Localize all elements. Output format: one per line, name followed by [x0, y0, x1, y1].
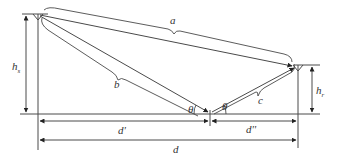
- label-hs: hs: [12, 60, 21, 75]
- label-theta-left: θ: [188, 103, 194, 115]
- label-d: d: [173, 143, 179, 155]
- label-hr: hr: [316, 84, 325, 99]
- receiver: [293, 65, 320, 148]
- label-theta-right: θ: [222, 100, 228, 112]
- label-b: b: [114, 78, 120, 90]
- brace-a: [44, 8, 292, 62]
- theta-arc-left: [194, 105, 196, 114]
- incident-ray-b: [40, 16, 208, 112]
- label-a: a: [170, 14, 176, 26]
- label-c: c: [258, 94, 263, 106]
- label-d-prime: d': [118, 124, 127, 136]
- direct-ray-a: [40, 15, 292, 66]
- diagram-canvas: a b c hs hr θ θ d' d'' d: [0, 0, 338, 162]
- label-d-double-prime: d'': [246, 123, 257, 135]
